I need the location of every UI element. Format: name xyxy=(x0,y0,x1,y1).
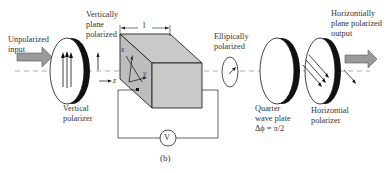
label-unpolarized-input: Unpolarized input xyxy=(8,35,49,55)
label-vertical-polarizer: Vertical polarizer xyxy=(63,104,92,124)
label-length: l xyxy=(143,21,145,31)
label-ellipically-polarized: Ellipically polarized xyxy=(214,32,249,52)
label-axis-y: y xyxy=(143,69,146,79)
output-arrow-icon xyxy=(345,50,377,68)
diagram-graphics xyxy=(0,0,386,173)
label-horizontial-polarizer: Horizontial polarizer xyxy=(311,106,349,126)
label-voltmeter: V xyxy=(164,133,170,143)
label-axis-x: x xyxy=(121,45,124,55)
elliptical-polarization-icon xyxy=(222,57,238,87)
electro-optic-crystal xyxy=(120,34,202,108)
label-vertically-plane-polarized: Vertically plane polarized xyxy=(86,10,118,40)
label-horizontially-plane-polarized-output: Horizontially plane polarized output xyxy=(331,9,382,39)
horizontal-polarizer-disc xyxy=(303,38,341,104)
horizontal-field-arrow-icon xyxy=(344,70,356,84)
z-axis-arrow-icon xyxy=(99,80,112,83)
label-axis-z: z xyxy=(113,76,116,86)
figure-caption: (b) xyxy=(160,153,171,163)
quarter-wave-plate-disc xyxy=(260,38,300,104)
vertical-polarizer-disc xyxy=(50,38,90,104)
label-quarter-wave-plate: Quarter wave plate Δϕ = π/2 xyxy=(255,104,291,134)
electro-optic-modulator-diagram: Unpolarized input Vertical polarizer Ver… xyxy=(0,0,386,173)
vertical-field-arrow-icon xyxy=(97,52,100,70)
